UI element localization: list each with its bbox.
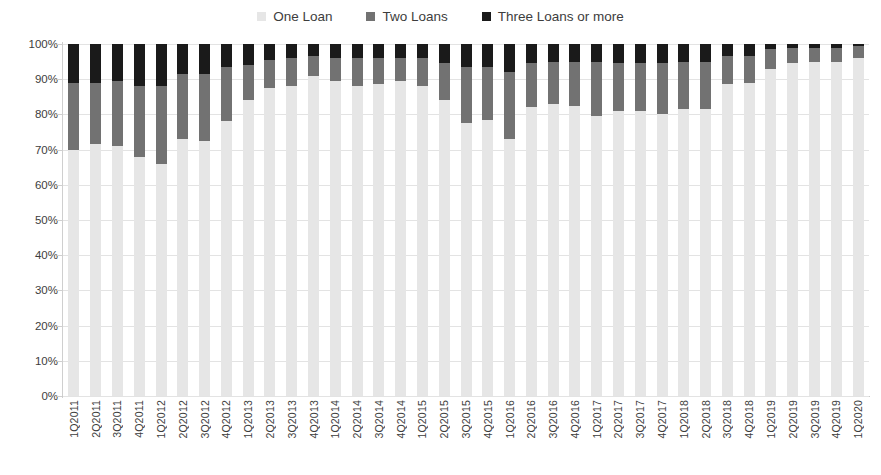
- bar-segment-three-loans-or-more[interactable]: [613, 44, 624, 63]
- bar-segment-one-loan[interactable]: [395, 81, 406, 396]
- bar-segment-one-loan[interactable]: [156, 164, 167, 396]
- bar-segment-three-loans-or-more[interactable]: [68, 44, 79, 83]
- bar-segment-three-loans-or-more[interactable]: [308, 44, 319, 56]
- bar-segment-one-loan[interactable]: [177, 139, 188, 396]
- bar-segment-one-loan[interactable]: [765, 69, 776, 396]
- bar-1Q2019[interactable]: [765, 44, 776, 396]
- bar-1Q2016[interactable]: [504, 44, 515, 396]
- bar-segment-three-loans-or-more[interactable]: [90, 44, 101, 83]
- bar-segment-one-loan[interactable]: [68, 150, 79, 396]
- bar-2Q2018[interactable]: [700, 44, 711, 396]
- bar-segment-one-loan[interactable]: [722, 84, 733, 396]
- bar-segment-one-loan[interactable]: [526, 107, 537, 396]
- bar-2Q2015[interactable]: [439, 44, 450, 396]
- bar-segment-one-loan[interactable]: [90, 144, 101, 396]
- bar-segment-three-loans-or-more[interactable]: [635, 44, 646, 63]
- bar-segment-two-loans[interactable]: [112, 81, 123, 146]
- bar-4Q2019[interactable]: [831, 44, 842, 396]
- bar-1Q2013[interactable]: [243, 44, 254, 396]
- bar-segment-two-loans[interactable]: [809, 48, 820, 62]
- bar-4Q2012[interactable]: [221, 44, 232, 396]
- bar-segment-one-loan[interactable]: [199, 141, 210, 396]
- bar-segment-two-loans[interactable]: [308, 56, 319, 75]
- bar-segment-three-loans-or-more[interactable]: [482, 44, 493, 67]
- bar-segment-one-loan[interactable]: [744, 83, 755, 396]
- bar-segment-one-loan[interactable]: [134, 157, 145, 396]
- bar-segment-two-loans[interactable]: [765, 49, 776, 68]
- bar-segment-one-loan[interactable]: [504, 139, 515, 396]
- bar-segment-three-loans-or-more[interactable]: [264, 44, 275, 60]
- bar-segment-two-loans[interactable]: [90, 83, 101, 145]
- bar-segment-three-loans-or-more[interactable]: [700, 44, 711, 62]
- bar-segment-two-loans[interactable]: [286, 58, 297, 86]
- bar-segment-two-loans[interactable]: [68, 83, 79, 150]
- bar-3Q2011[interactable]: [112, 44, 123, 396]
- bar-segment-one-loan[interactable]: [787, 63, 798, 396]
- bar-segment-two-loans[interactable]: [722, 56, 733, 84]
- bar-segment-two-loans[interactable]: [352, 58, 363, 86]
- bar-3Q2019[interactable]: [809, 44, 820, 396]
- bar-segment-two-loans[interactable]: [591, 62, 602, 117]
- bar-segment-two-loans[interactable]: [395, 58, 406, 81]
- bar-segment-two-loans[interactable]: [177, 74, 188, 139]
- bar-segment-one-loan[interactable]: [264, 88, 275, 396]
- bar-4Q2014[interactable]: [395, 44, 406, 396]
- bar-2Q2013[interactable]: [264, 44, 275, 396]
- bar-segment-one-loan[interactable]: [635, 111, 646, 396]
- bar-segment-three-loans-or-more[interactable]: [439, 44, 450, 63]
- bar-segment-three-loans-or-more[interactable]: [373, 44, 384, 58]
- bar-segment-two-loans[interactable]: [657, 63, 668, 114]
- bar-segment-two-loans[interactable]: [199, 74, 210, 141]
- bar-3Q2018[interactable]: [722, 44, 733, 396]
- bar-segment-one-loan[interactable]: [243, 100, 254, 396]
- bar-segment-two-loans[interactable]: [700, 62, 711, 110]
- bar-segment-two-loans[interactable]: [221, 67, 232, 122]
- bar-4Q2011[interactable]: [134, 44, 145, 396]
- bar-segment-two-loans[interactable]: [831, 48, 842, 62]
- bar-segment-two-loans[interactable]: [373, 58, 384, 84]
- bar-segment-three-loans-or-more[interactable]: [504, 44, 515, 72]
- bar-3Q2017[interactable]: [635, 44, 646, 396]
- bar-3Q2016[interactable]: [548, 44, 559, 396]
- bar-segment-three-loans-or-more[interactable]: [199, 44, 210, 74]
- bar-2Q2019[interactable]: [787, 44, 798, 396]
- bar-segment-two-loans[interactable]: [417, 58, 428, 86]
- bar-segment-one-loan[interactable]: [286, 86, 297, 396]
- bar-segment-two-loans[interactable]: [439, 63, 450, 100]
- bar-segment-one-loan[interactable]: [831, 62, 842, 396]
- bar-segment-one-loan[interactable]: [221, 121, 232, 396]
- bar-segment-one-loan[interactable]: [112, 146, 123, 396]
- bar-segment-one-loan[interactable]: [482, 120, 493, 396]
- bar-segment-three-loans-or-more[interactable]: [591, 44, 602, 62]
- bar-segment-three-loans-or-more[interactable]: [112, 44, 123, 81]
- bar-segment-one-loan[interactable]: [330, 81, 341, 396]
- bar-4Q2017[interactable]: [657, 44, 668, 396]
- bar-segment-two-loans[interactable]: [156, 86, 167, 163]
- bar-segment-two-loans[interactable]: [243, 65, 254, 100]
- bar-segment-one-loan[interactable]: [373, 84, 384, 396]
- bar-1Q2018[interactable]: [678, 44, 689, 396]
- bar-4Q2015[interactable]: [482, 44, 493, 396]
- bar-segment-three-loans-or-more[interactable]: [286, 44, 297, 58]
- bar-segment-two-loans[interactable]: [678, 62, 689, 110]
- bar-segment-two-loans[interactable]: [330, 58, 341, 81]
- bar-1Q2014[interactable]: [330, 44, 341, 396]
- bar-segment-one-loan[interactable]: [308, 76, 319, 396]
- bar-segment-three-loans-or-more[interactable]: [156, 44, 167, 86]
- bar-segment-two-loans[interactable]: [613, 63, 624, 111]
- bar-segment-one-loan[interactable]: [548, 104, 559, 396]
- bar-3Q2012[interactable]: [199, 44, 210, 396]
- bar-segment-one-loan[interactable]: [853, 58, 864, 396]
- bar-segment-one-loan[interactable]: [591, 116, 602, 396]
- bar-segment-two-loans[interactable]: [134, 86, 145, 156]
- bar-1Q2020[interactable]: [853, 44, 864, 396]
- bar-segment-two-loans[interactable]: [264, 60, 275, 88]
- bar-segment-three-loans-or-more[interactable]: [417, 44, 428, 58]
- bar-segment-one-loan[interactable]: [613, 111, 624, 396]
- bar-segment-three-loans-or-more[interactable]: [657, 44, 668, 63]
- bar-segment-three-loans-or-more[interactable]: [221, 44, 232, 67]
- bar-4Q2013[interactable]: [308, 44, 319, 396]
- bar-segment-one-loan[interactable]: [678, 109, 689, 396]
- bar-segment-three-loans-or-more[interactable]: [395, 44, 406, 58]
- bar-segment-three-loans-or-more[interactable]: [330, 44, 341, 58]
